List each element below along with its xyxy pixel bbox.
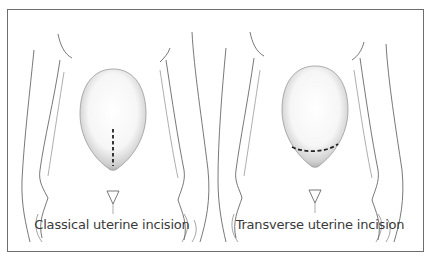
- uterus-shape: [282, 66, 348, 167]
- panel-classical-incision: Classical uterine incision: [8, 10, 216, 253]
- caption-transverse: Transverse uterine incision: [216, 217, 424, 232]
- caption-classical: Classical uterine incision: [8, 217, 216, 232]
- figure-frame: Classical uterine incision: [7, 9, 424, 252]
- panel-transverse-incision: Transverse uterine incision: [216, 10, 424, 253]
